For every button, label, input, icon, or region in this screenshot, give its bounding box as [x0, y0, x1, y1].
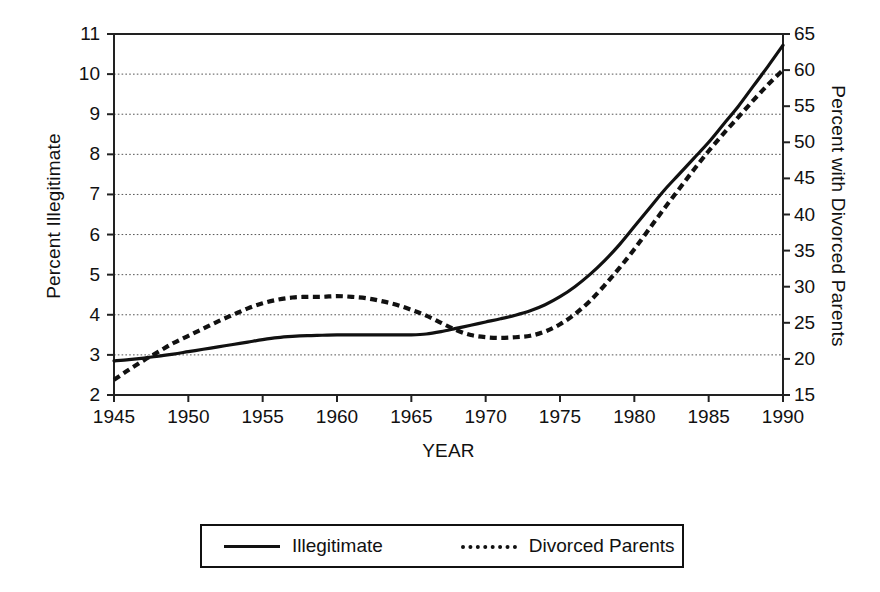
plot-area [0, 0, 880, 592]
axis-lines [114, 34, 783, 395]
chart-figure: Percent Illegitimate Percent with Divorc… [0, 0, 880, 592]
dotted-line-icon [461, 540, 517, 552]
chart-legend: Illegitimate Divorced Parents [200, 524, 684, 568]
legend-item-illegitimate: Illegitimate [224, 526, 383, 566]
series-line-divorced-parents [114, 70, 783, 380]
gridlines [114, 74, 783, 355]
legend-item-divorced-parents: Divorced Parents [461, 526, 675, 566]
solid-line-icon [224, 540, 280, 552]
legend-label-illegitimate: Illegitimate [292, 535, 383, 557]
data-curves [114, 45, 783, 380]
series-line-illegitimate [114, 45, 783, 361]
legend-label-divorced-parents: Divorced Parents [529, 535, 675, 557]
